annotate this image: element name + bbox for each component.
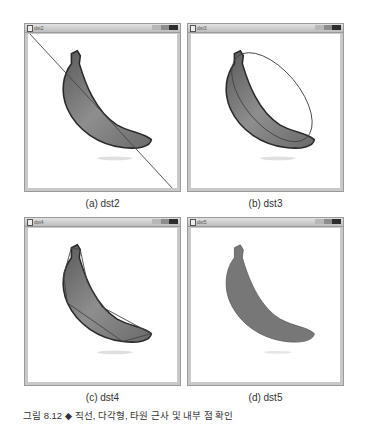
window-titlebar: dst2	[25, 24, 180, 33]
panel-label-d: (d) dst5	[187, 392, 344, 403]
panel-label-c: (c) dst4	[24, 392, 181, 403]
maximize-icon[interactable]	[161, 219, 170, 224]
close-icon[interactable]	[169, 219, 178, 224]
window-dst2: dst2	[24, 23, 181, 192]
panel-label-b: (b) dst3	[187, 198, 344, 209]
window-title: dst5	[197, 218, 206, 226]
close-icon[interactable]	[332, 219, 341, 224]
window-app-icon	[190, 219, 196, 226]
window-title: dst3	[197, 24, 206, 32]
panel-label-a: (a) dst2	[24, 198, 181, 209]
minimize-icon[interactable]	[315, 25, 324, 30]
window-app-icon	[27, 25, 33, 32]
minimize-icon[interactable]	[315, 219, 324, 224]
window-app-icon	[190, 25, 196, 32]
banana-filled-region-image	[191, 228, 340, 382]
window-titlebar: dst4	[25, 218, 180, 227]
window-dst4: dst4	[24, 217, 181, 386]
minimize-icon[interactable]	[152, 25, 161, 30]
close-icon[interactable]	[332, 25, 341, 30]
banana-ellipse-fit-image	[191, 34, 340, 188]
window-titlebar: dst5	[188, 218, 343, 227]
window-app-icon	[27, 219, 33, 226]
image-canvas	[28, 228, 177, 382]
maximize-icon[interactable]	[324, 219, 333, 224]
window-title: dst2	[34, 24, 43, 32]
window-dst5: dst5	[187, 217, 344, 386]
window-title: dst4	[34, 218, 43, 226]
maximize-icon[interactable]	[161, 25, 170, 30]
banana-line-fit-image	[28, 34, 177, 188]
image-canvas	[191, 34, 340, 188]
window-titlebar: dst3	[188, 24, 343, 33]
window-dst3: dst3	[187, 23, 344, 192]
image-canvas	[191, 228, 340, 382]
figure-caption: 그림 8.12 ◆ 직선, 다각형, 타원 근사 및 내부 점 확인	[23, 408, 233, 422]
banana-polygon-fit-image	[28, 228, 177, 382]
minimize-icon[interactable]	[152, 219, 161, 224]
image-canvas	[28, 34, 177, 188]
close-icon[interactable]	[169, 25, 178, 30]
maximize-icon[interactable]	[324, 25, 333, 30]
